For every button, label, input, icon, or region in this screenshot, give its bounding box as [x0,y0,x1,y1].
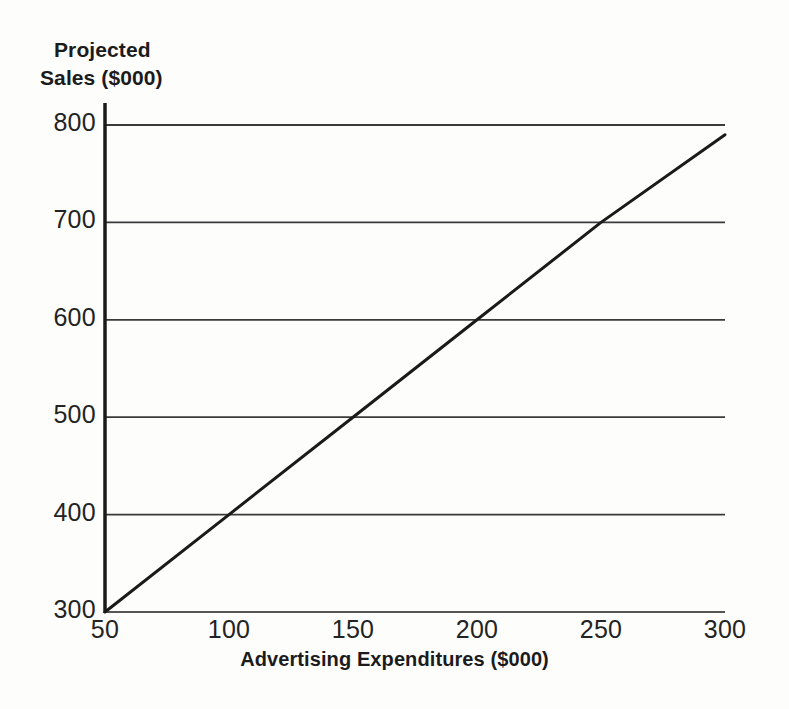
gridlines [105,125,725,515]
y-tick-label-800: 800 [26,108,96,137]
x-tick-label-300: 300 [680,615,770,644]
x-tick-label-100: 100 [184,615,274,644]
chart-figure: Projected Sales ($000) 30040050060070080… [0,0,789,709]
x-tick-label-200: 200 [432,615,522,644]
x-tick-label-250: 250 [556,615,646,644]
data-line-0 [105,135,725,612]
y-tick-label-700: 700 [26,205,96,234]
y-tick-label-500: 500 [26,400,96,429]
y-tick-label-400: 400 [26,498,96,527]
x-axis-title: Advertising Expenditures ($000) [0,648,789,671]
y-tick-labels: 300400500600700800 [22,0,96,709]
y-tick-label-600: 600 [26,303,96,332]
data-series-layer [105,135,725,612]
axis-lines [105,103,725,613]
x-tick-label-50: 50 [60,615,150,644]
plot-area [0,0,789,709]
x-tick-label-150: 150 [308,615,398,644]
